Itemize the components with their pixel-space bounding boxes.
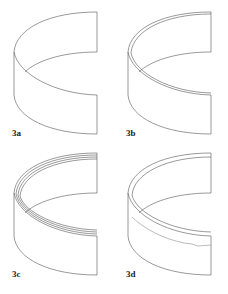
panel-3d: 3d (114, 147, 228, 294)
panel-3a: 3a (0, 0, 114, 147)
panel-label: 3d (126, 269, 136, 279)
curved-band-diagram-3b (114, 0, 228, 147)
panel-3b: 3b (114, 0, 228, 147)
panel-label: 3b (126, 128, 136, 138)
panel-label: 3c (12, 269, 21, 279)
panel-3c: 3c (0, 147, 114, 294)
curved-band-diagram-3a (0, 0, 114, 147)
panel-label: 3a (12, 128, 21, 138)
